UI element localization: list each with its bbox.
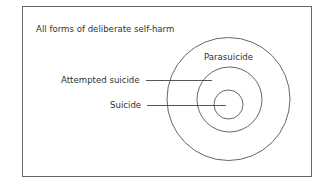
frame-label: All forms of deliberate self-harm [36,24,174,34]
suicide-label: Suicide [110,100,141,110]
parasuicide-label: Parasuicide [204,52,253,62]
attempted-suicide-label: Attempted suicide [61,75,140,85]
self-harm-diagram: All forms of deliberate self-harm Parasu… [0,0,325,185]
